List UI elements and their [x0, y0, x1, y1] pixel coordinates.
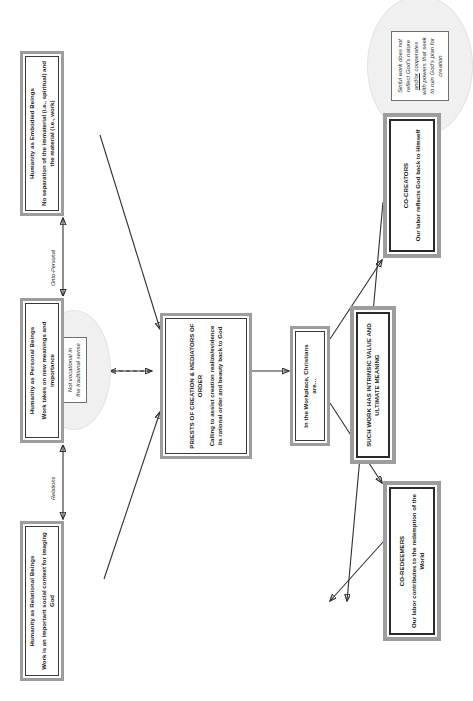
- callout-note-box: Sinful work does not reflect God's natur…: [391, 31, 450, 101]
- node-in-the-workplace[interactable]: In the Workplace, Christians are…: [290, 326, 330, 446]
- node-humanity-relational[interactable]: Humanity as Relational Beings Work is an…: [20, 521, 64, 681]
- callout-line-1: Not vocational in: [67, 348, 73, 392]
- callout-note-box: Not vocational in the traditional sense: [61, 337, 87, 403]
- node-body: Work is an important social context for …: [40, 531, 56, 671]
- node-body: Our labor reflects God back to Himself: [414, 130, 422, 241]
- callout-line-2: reflect God's nature: [405, 40, 411, 92]
- node-conclusion[interactable]: SUCH WORK HAS INTRINSIC VALUE AND ULTIMA…: [350, 306, 396, 464]
- callout-line-6: creation: [437, 55, 443, 76]
- edge-coredeemers-conclusion: [330, 542, 383, 601]
- node-body: Calling to assist creation realize/evide…: [208, 323, 224, 449]
- node-co-redeemers[interactable]: CO-REDEEMERS Our labor contributes to th…: [383, 481, 441, 641]
- node-title: Humanity as Relational Beings: [28, 556, 36, 647]
- node-title: In the Workplace, Christians are…: [302, 336, 317, 436]
- node-humanity-embodied[interactable]: Humanity as Embodied Beings No separatio…: [20, 51, 64, 216]
- node-co-creators[interactable]: CO-CREATORS Our labor reflects God back …: [383, 113, 441, 258]
- node-title: SUCH WORK HAS INTRINSIC VALUE AND ULTIMA…: [365, 318, 380, 452]
- node-title: CO-CREATORS: [402, 163, 410, 208]
- callout-line-5: to ruin God's plan for: [429, 38, 435, 94]
- callout-line-1: Sinful work does not: [397, 39, 403, 93]
- node-body: Our labor contributes to the redemption …: [410, 493, 426, 629]
- callout-line-3-rest: cooperates: [413, 42, 419, 73]
- node-priests-of-creation[interactable]: PRIESTS OF CREATION & MEDIATORS OF ORDER…: [160, 313, 252, 459]
- node-title: CO-REDEEMERS: [398, 536, 406, 587]
- edge-embodied-priests: [100, 135, 160, 329]
- node-title: Humanity as Personal Beings: [28, 327, 36, 414]
- edge-label-onto-personal: Onto-Personal: [50, 249, 56, 287]
- node-title: PRIESTS OF CREATION & MEDIATORS OF ORDER: [188, 323, 203, 449]
- callout-line-2: the traditional sense: [75, 343, 81, 397]
- callout-line-3-underlined: and/or: [413, 73, 419, 90]
- edge-label-relations: Relations: [50, 476, 56, 501]
- node-humanity-personal[interactable]: Humanity as Personal Beings Work takes o…: [20, 298, 64, 443]
- node-body: Work takes on new meanings and importanc…: [40, 308, 56, 433]
- node-body: No separation of the immaterial (i.e., s…: [40, 61, 56, 206]
- callout-line-4: with powers that seek: [421, 37, 427, 95]
- edge-relational-priests: [104, 412, 160, 579]
- node-title: Humanity as Embodied Beings: [28, 88, 36, 179]
